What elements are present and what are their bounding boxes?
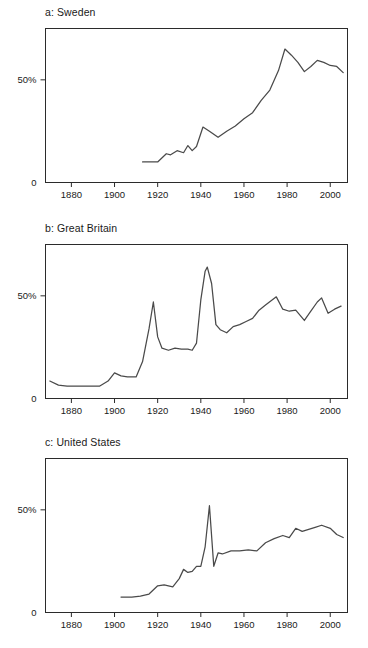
series-line: [143, 49, 344, 162]
panel-c-plot: 1880190019201940196019802000050%: [0, 430, 368, 646]
y-axis-tick-label: 50%: [17, 290, 37, 301]
x-axis-tick-label: 1880: [61, 619, 82, 630]
series-line: [121, 506, 343, 597]
x-axis-tick-label: 1960: [233, 405, 254, 416]
panel-b-plot: 1880190019201940196019802000050%: [0, 216, 368, 432]
y-axis-tick-label: 0: [31, 607, 36, 618]
y-axis-tick-label: 0: [31, 177, 36, 188]
y-axis-tick-label: 0: [31, 393, 36, 404]
x-axis-tick-label: 1960: [233, 619, 254, 630]
x-axis-tick-label: 1920: [147, 619, 168, 630]
plot-frame: [46, 459, 348, 613]
y-axis-tick-label: 50%: [17, 74, 37, 85]
x-axis-tick-label: 1940: [190, 405, 211, 416]
panel-c-united-states: c: United States 18801900192019401960198…: [0, 430, 368, 646]
x-axis-tick-label: 1980: [277, 189, 298, 200]
panel-a-plot: 1880190019201940196019802000050%: [0, 0, 368, 216]
x-axis-tick-label: 1900: [104, 405, 125, 416]
series-line: [50, 267, 341, 386]
x-axis-tick-label: 1940: [190, 189, 211, 200]
plot-frame: [46, 29, 348, 183]
x-axis-tick-label: 1880: [61, 189, 82, 200]
plot-frame: [46, 245, 348, 399]
panel-b-great-britain: b: Great Britain 18801900192019401960198…: [0, 216, 368, 432]
x-axis-tick-label: 1980: [277, 405, 298, 416]
x-axis-tick-label: 1920: [147, 405, 168, 416]
x-axis-tick-label: 2000: [320, 619, 341, 630]
x-axis-tick-label: 1880: [61, 405, 82, 416]
x-axis-tick-label: 1940: [190, 619, 211, 630]
x-axis-tick-label: 1980: [277, 619, 298, 630]
y-axis-tick-label: 50%: [17, 504, 37, 515]
panel-a-sweden: a: Sweden 188019001920194019601980200005…: [0, 0, 368, 216]
figure-three-panel-timeseries: a: Sweden 188019001920194019601980200005…: [0, 0, 368, 648]
x-axis-tick-label: 1960: [233, 189, 254, 200]
x-axis-tick-label: 2000: [320, 405, 341, 416]
x-axis-tick-label: 1900: [104, 619, 125, 630]
x-axis-tick-label: 2000: [320, 189, 341, 200]
x-axis-tick-label: 1920: [147, 189, 168, 200]
x-axis-tick-label: 1900: [104, 189, 125, 200]
